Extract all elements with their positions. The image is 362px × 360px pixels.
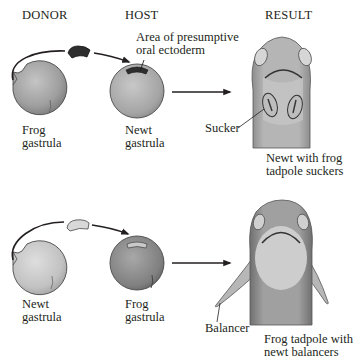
top-result-caption-2: tadpole suckers <box>266 165 343 178</box>
top-donor-label-2: gastrula <box>22 137 62 150</box>
bottom-result-caption-2: newt balancers <box>264 346 339 359</box>
callout-line-2: oral ectoderm <box>136 44 205 57</box>
host-frog-gastrula <box>110 236 164 290</box>
top-host-label-2: gastrula <box>125 137 165 150</box>
sucker-label: Sucker <box>205 122 240 135</box>
host-newt-gastrula <box>110 60 164 118</box>
graft-piece-newt <box>67 220 89 231</box>
bottom-donor-label-2: gastrula <box>22 311 62 324</box>
balancer-label: Balancer <box>205 322 249 335</box>
header-result: RESULT <box>265 9 312 22</box>
transfer-arrow-bottom-right <box>92 225 128 234</box>
donor-frog-gastrula <box>13 61 67 115</box>
header-donor: DONOR <box>22 9 67 22</box>
newt-with-frog-suckers <box>252 37 314 148</box>
donor-newt-gastrula <box>13 241 67 295</box>
header-host: HOST <box>125 9 158 22</box>
transfer-arrow-top-right <box>94 53 129 62</box>
graft-piece-frog <box>68 46 90 58</box>
bottom-host-label-2: gastrula <box>125 311 165 324</box>
transplant-diagram: DONOR HOST RESULT Area of presumptive or… <box>0 0 362 360</box>
frog-tadpole-with-newt-balancers <box>215 200 328 325</box>
